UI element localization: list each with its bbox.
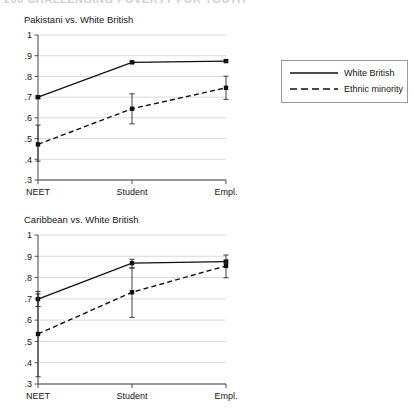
- legend-key-solid-line: [288, 66, 340, 80]
- y-tick-label: .5: [24, 134, 32, 144]
- page-running-head: 200 CHALLENGING POVERTY FOR YOUTH: [0, 0, 414, 10]
- legend: White British Ethnic minority: [281, 60, 408, 103]
- y-tick-label: .9: [24, 252, 32, 262]
- data-point-marker: [130, 290, 134, 294]
- y-tick-label: .4: [24, 358, 32, 368]
- legend-key-dashed-line: [288, 82, 340, 96]
- y-tick-label: .3: [24, 175, 32, 185]
- x-tick-label: Empl.: [214, 391, 237, 401]
- x-tick-label: Student: [116, 391, 148, 401]
- data-point-marker: [130, 261, 134, 265]
- legend-item-white-british: White British: [282, 65, 407, 81]
- plot-svg-caribbean: .3.4.5.6.7.8.91NEETStudentEmpl.: [0, 226, 270, 410]
- data-point-marker: [224, 86, 228, 90]
- plot-area-caribbean: .3.4.5.6.7.8.91NEETStudentEmpl.: [0, 226, 270, 410]
- panel-title-pakistani: Pakistani vs. White British: [24, 14, 133, 25]
- plot-svg-pakistani: .3.4.5.6.7.8.91NEETStudentEmpl.: [0, 26, 270, 206]
- data-point-marker: [36, 142, 40, 146]
- data-point-marker: [224, 264, 228, 268]
- series-line-white-british: [38, 61, 226, 97]
- data-point-marker: [224, 59, 228, 63]
- y-tick-label: .6: [24, 315, 32, 325]
- y-tick-label: .4: [24, 155, 32, 165]
- legend-item-ethnic-minority: Ethnic minority: [282, 81, 407, 97]
- chart-panel-caribbean: Caribbean vs. White British .3.4.5.6.7.8…: [0, 214, 414, 416]
- data-point-marker: [130, 107, 134, 111]
- y-tick-label: .8: [24, 72, 32, 82]
- x-tick-label: NEET: [26, 391, 51, 401]
- figure-page: 200 CHALLENGING POVERTY FOR YOUTH Pakist…: [0, 0, 414, 416]
- y-tick-label: .6: [24, 113, 32, 123]
- data-point-marker: [36, 95, 40, 99]
- y-tick-label: 1: [27, 30, 32, 40]
- plot-area-pakistani: .3.4.5.6.7.8.91NEETStudentEmpl.: [0, 26, 270, 206]
- y-tick-label: .9: [24, 51, 32, 61]
- panel-title-caribbean: Caribbean vs. White British: [24, 214, 139, 225]
- legend-label-white-british: White British: [344, 68, 395, 78]
- x-tick-label: Empl.: [214, 187, 237, 197]
- y-tick-label: .3: [24, 379, 32, 389]
- x-tick-label: Student: [116, 187, 148, 197]
- data-point-marker: [130, 60, 134, 64]
- y-tick-label: .7: [24, 92, 32, 102]
- y-tick-label: .5: [24, 337, 32, 347]
- running-head-text: 200 CHALLENGING POVERTY FOR YOUTH: [4, 0, 246, 5]
- y-tick-label: .8: [24, 273, 32, 283]
- x-tick-label: NEET: [26, 187, 51, 197]
- legend-label-ethnic-minority: Ethnic minority: [344, 84, 403, 94]
- y-tick-label: .7: [24, 294, 32, 304]
- data-point-marker: [36, 332, 40, 336]
- chart-panel-pakistani: Pakistani vs. White British .3.4.5.6.7.8…: [0, 14, 414, 210]
- y-tick-label: 1: [27, 230, 32, 240]
